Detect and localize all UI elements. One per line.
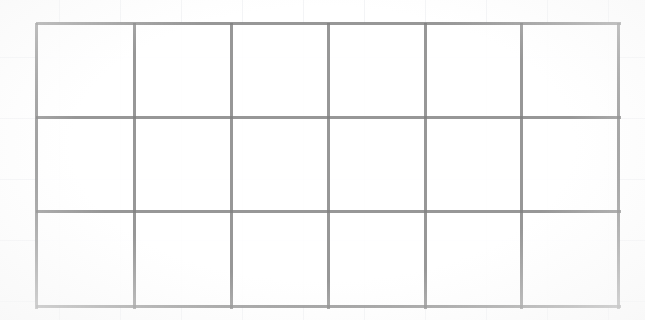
- grid-cell[interactable]: [134, 211, 231, 306]
- grid-cell[interactable]: [134, 23, 231, 117]
- grid-cell[interactable]: [328, 23, 425, 117]
- grid-cell[interactable]: [36, 117, 134, 211]
- grid-cell[interactable]: [521, 211, 618, 306]
- grid-cell[interactable]: [231, 211, 328, 306]
- grid-cell[interactable]: [425, 117, 521, 211]
- blank-grid-table: [36, 23, 618, 306]
- grid-cell[interactable]: [328, 211, 425, 306]
- grid-cell[interactable]: [425, 211, 521, 306]
- grid-cell[interactable]: [36, 211, 134, 306]
- grid-cell[interactable]: [134, 117, 231, 211]
- grid-cell[interactable]: [521, 117, 618, 211]
- grid-cell[interactable]: [36, 23, 134, 117]
- grid-cell[interactable]: [231, 117, 328, 211]
- grid-cell[interactable]: [425, 23, 521, 117]
- grid-cell[interactable]: [328, 117, 425, 211]
- grid-cell[interactable]: [521, 23, 618, 117]
- scanned-page: [0, 0, 645, 320]
- grid-cell[interactable]: [231, 23, 328, 117]
